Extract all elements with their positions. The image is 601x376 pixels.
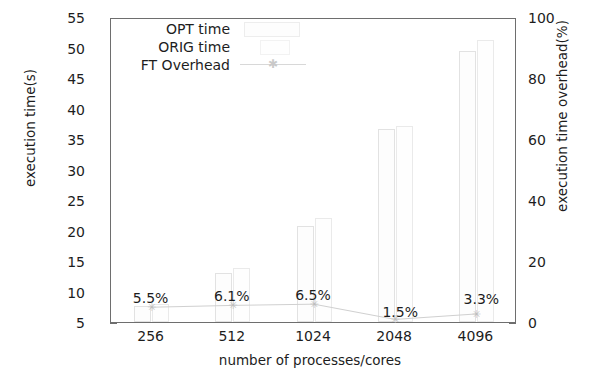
bar-orig-time (477, 40, 494, 322)
legend-item-opt-time[interactable]: OPT time (108, 20, 328, 38)
y-axis-left-tick-label: 20 (41, 224, 85, 240)
y-axis-left-tick-label: 25 (41, 193, 85, 209)
overhead-value-label: 1.5% (382, 304, 418, 320)
y-axis-left-tick-label: 15 (41, 254, 85, 270)
y-axis-left-tick-label: 40 (41, 102, 85, 118)
bar-orig-time (152, 304, 169, 322)
x-axis-tick-label: 512 (197, 328, 267, 344)
y-axis-right-tick-label: 100 (528, 10, 572, 26)
x-axis-tick-label: 1024 (278, 328, 348, 344)
y-axis-right-tick-label: 60 (528, 132, 572, 148)
legend-label-orig-time: ORIG time (108, 39, 240, 55)
bar-opt-time (134, 306, 151, 322)
y-axis-right-tick-label: 40 (528, 193, 572, 209)
line-star-marker-icon: ✱ (240, 58, 310, 72)
x-axis-tick-label: 4096 (440, 328, 510, 344)
legend-item-orig-time[interactable]: ORIG time (108, 38, 328, 56)
y-axis-left-tick-label: 45 (41, 71, 85, 87)
bar-swatch-icon (240, 40, 310, 54)
y-axis-left-tick (110, 323, 117, 324)
y-axis-right-tick-label: 20 (528, 254, 572, 270)
y-axis-left-title: execution time(s) (22, 28, 38, 228)
legend-item-ft-overhead[interactable]: FT Overhead ✱ (108, 56, 328, 74)
overhead-value-label: 6.1% (214, 288, 250, 304)
bar-opt-time (297, 226, 314, 322)
chart-figure: execution time(s) execution time overhea… (0, 0, 601, 376)
bar-opt-time (378, 129, 395, 322)
y-axis-left-tick-label: 30 (41, 163, 85, 179)
bar-opt-time (459, 51, 476, 322)
y-axis-right-tick-label: 80 (528, 71, 572, 87)
y-axis-left-tick-label: 35 (41, 132, 85, 148)
overhead-value-label: 5.5% (133, 290, 169, 306)
y-axis-right-tick (509, 323, 516, 324)
legend-label-opt-time: OPT time (108, 21, 240, 37)
x-axis-tick-label: 2048 (359, 328, 429, 344)
legend-label-ft-overhead: FT Overhead (108, 57, 240, 73)
chart-legend: OPT time ORIG time FT Overhead ✱ (108, 20, 328, 74)
overhead-value-label: 3.3% (464, 291, 500, 307)
y-axis-left-tick-label: 50 (41, 41, 85, 57)
bar-orig-time (315, 218, 332, 322)
bar-swatch-icon (240, 22, 310, 36)
overhead-value-label: 6.5% (295, 287, 331, 303)
x-axis-tick-label: 256 (116, 328, 186, 344)
x-axis-title: number of processes/cores (110, 352, 510, 368)
bar-orig-time (396, 126, 413, 322)
y-axis-left-tick-label: 10 (41, 285, 85, 301)
y-axis-left-tick-label: 5 (41, 315, 85, 331)
y-axis-right-tick-label: 0 (528, 315, 572, 331)
y-axis-left-tick-label: 55 (41, 10, 85, 26)
